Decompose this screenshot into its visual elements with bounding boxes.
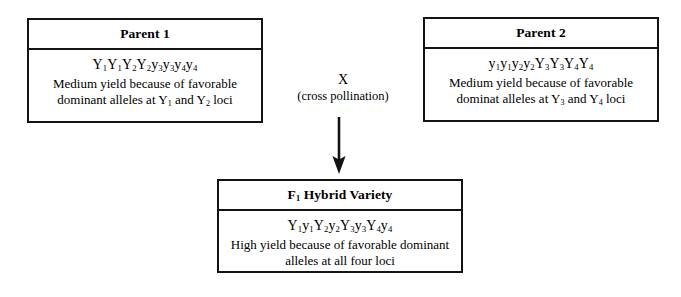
parent1-locus1: 1 xyxy=(168,99,172,108)
f1-header: F1 Hybrid Variety xyxy=(219,181,461,211)
parent2-header: Parent 2 xyxy=(425,19,657,49)
f1-description-line2: alleles at all four loci xyxy=(285,253,395,268)
parent1-description: Medium yield because of favorable domina… xyxy=(35,76,255,109)
parent2-locus1: 3 xyxy=(560,98,564,107)
f1-description-line1: High yield because of favorable dominant xyxy=(231,237,449,252)
f1-genotype: Y1y1Y2y2Y3y3Y4y4 xyxy=(225,218,455,234)
cross-symbol: X xyxy=(283,72,403,87)
parent1-genotype: Y1Y1Y2Y2y3y3y4y4 xyxy=(35,57,255,73)
parent1-description-suffix: loci xyxy=(210,92,233,107)
parent1-description-prefix: dominant alleles at Y xyxy=(57,92,167,107)
parent1-description-middle: and Y xyxy=(172,92,206,107)
punnett-cross-diagram: Parent 1 Y1Y1Y2Y2y3y3y4y4 Medium yield b… xyxy=(0,0,681,297)
f1-header-generation: 1 xyxy=(296,194,300,203)
parent2-description-suffix: loci xyxy=(603,91,626,106)
parent1-locus2: 2 xyxy=(206,99,210,108)
parent2-description: Medium yield because of favorable domina… xyxy=(431,75,651,108)
f1-body: Y1y1Y2y2Y3y3Y4y4 High yield because of f… xyxy=(219,211,461,278)
cross-annotation: X (cross pollination) xyxy=(283,72,403,104)
parent1-body: Y1Y1Y2Y2y3y3y4y4 Medium yield because of… xyxy=(29,50,261,117)
parent1-header: Parent 1 xyxy=(29,20,261,50)
parent1-box: Parent 1 Y1Y1Y2Y2y3y3y4y4 Medium yield b… xyxy=(27,18,263,123)
f1-hybrid-box: F1 Hybrid Variety Y1y1Y2y2Y3y3Y4y4 High … xyxy=(217,179,463,273)
f1-header-suffix: Hybrid Variety xyxy=(300,187,392,202)
parent2-locus2: 4 xyxy=(599,98,603,107)
parent2-box: Parent 2 y1y1y2y2Y3Y3Y4Y4 Medium yield b… xyxy=(423,17,659,122)
parent2-description-prefix: dominat alleles at Y xyxy=(457,91,561,106)
parent2-genotype: y1y1y2y2Y3Y3Y4Y4 xyxy=(431,56,651,72)
parent2-body: y1y1y2y2Y3Y3Y4Y4 Medium yield because of… xyxy=(425,49,657,116)
parent2-description-line1: Medium yield because of favorable xyxy=(449,75,633,90)
downward-arrow-icon xyxy=(329,117,349,175)
cross-caption: (cross pollination) xyxy=(283,89,403,104)
parent2-description-middle: and Y xyxy=(564,91,598,106)
f1-header-prefix: F xyxy=(288,187,296,202)
parent1-description-line1: Medium yield because of favorable xyxy=(53,76,237,91)
f1-description: High yield because of favorable dominant… xyxy=(225,237,455,270)
